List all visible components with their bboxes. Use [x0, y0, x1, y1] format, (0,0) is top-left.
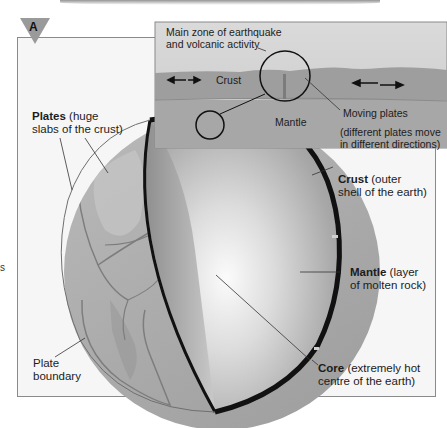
- plates-desc2: slabs of the crust): [32, 123, 123, 136]
- zone-label: Main zone of earthquake and volcanic act…: [166, 26, 282, 50]
- core-label: Core (extremely hot centre of the earth): [318, 362, 420, 388]
- core-desc1: (extremely hot: [344, 362, 420, 374]
- plates-title: Plates: [32, 110, 66, 122]
- crust-label: Crust (outer shell of the earth): [338, 173, 427, 199]
- moving-plates-note: (different plates move in different dire…: [340, 126, 441, 150]
- mantle-desc2: of molten rock): [350, 279, 426, 292]
- moving-note-line1: (different plates move: [340, 126, 441, 138]
- core-title: Core: [318, 362, 344, 374]
- zone-label-line2: and volcanic activity: [166, 38, 282, 50]
- core-desc2: centre of the earth): [318, 375, 420, 388]
- moving-note-line2: in different directions): [340, 138, 441, 150]
- inset-mantle-label: Mantle: [275, 116, 307, 128]
- mantle-label: Mantle (layer of molten rock): [350, 266, 426, 292]
- plate-boundary-label: Plate boundary: [33, 357, 81, 383]
- inset-crust-label: Crust: [216, 74, 241, 86]
- mantle-desc1: (layer: [386, 266, 418, 278]
- boundary-line1: Plate: [33, 357, 81, 370]
- plates-desc1: (huge: [66, 110, 99, 122]
- crust-title: Crust: [338, 173, 368, 185]
- boundary-line2: boundary: [33, 370, 81, 383]
- crust-desc2: shell of the earth): [338, 186, 427, 199]
- mantle-title: Mantle: [350, 266, 386, 278]
- crust-desc1: (outer: [368, 173, 401, 185]
- plates-label: Plates (huge slabs of the crust): [32, 110, 123, 136]
- zone-label-line1: Main zone of earthquake: [166, 26, 282, 38]
- moving-plates-label: Moving plates: [343, 107, 408, 119]
